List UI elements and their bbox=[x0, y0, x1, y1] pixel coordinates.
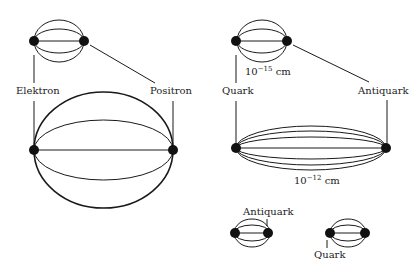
label-size-small: 10−15 cm bbox=[245, 66, 291, 77]
label-split-quark: Quark bbox=[314, 250, 345, 260]
size-small-unit: cm bbox=[273, 66, 291, 77]
size-small-exponent: −15 bbox=[258, 65, 273, 73]
label-positron: Positron bbox=[150, 86, 192, 96]
quark-dot-split-a bbox=[230, 228, 240, 238]
positron-leader-top bbox=[90, 45, 155, 83]
quark-dot-split-b bbox=[325, 228, 335, 238]
label-elektron: Elektron bbox=[16, 86, 60, 96]
large-electron-positron-field bbox=[34, 92, 173, 208]
size-large-unit: cm bbox=[322, 175, 340, 186]
small-electron-positron-pair bbox=[34, 20, 84, 62]
size-large-exponent: −12 bbox=[307, 174, 322, 182]
label-antiquark: Antiquark bbox=[358, 86, 409, 96]
antiquark-leader-top bbox=[293, 45, 369, 82]
electron-dot-large bbox=[29, 145, 39, 155]
label-quark: Quark bbox=[222, 86, 253, 96]
size-small-base: 10 bbox=[245, 66, 258, 77]
size-large-base: 10 bbox=[294, 175, 307, 186]
diagram-canvas bbox=[0, 0, 417, 275]
small-quark-antiquark-pair bbox=[237, 20, 287, 62]
electron-dot-small bbox=[29, 36, 39, 46]
antiquark-dot-split-a bbox=[263, 228, 273, 238]
quark-dot-large bbox=[231, 143, 241, 153]
antiquark-dot-small bbox=[282, 36, 292, 46]
antiquark-dot-split-b bbox=[360, 228, 370, 238]
positron-dot-small bbox=[79, 36, 89, 46]
label-split-antiquark: Antiquark bbox=[243, 207, 294, 217]
antiquark-dot-large bbox=[381, 143, 391, 153]
quark-dot-small bbox=[231, 36, 241, 46]
label-size-large: 10−12 cm bbox=[294, 175, 340, 186]
stretched-flux-tube bbox=[236, 126, 386, 170]
positron-dot-large bbox=[168, 145, 178, 155]
